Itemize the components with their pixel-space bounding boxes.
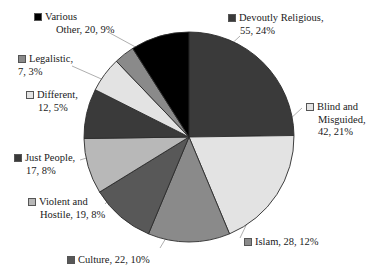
pie-label-text-legalistic-line2: 7, 3% (18, 66, 73, 79)
pie-label-legalistic: Legalistic, 7, 3% (18, 53, 73, 78)
pie-label-various-other: Various Other, 20, 9% (34, 11, 114, 36)
pie-label-violent-and-hostile: Violent and Hostile, 19, 8% (28, 196, 105, 221)
pie-label-text-blind-and-misguided-line3: 42, 21% (318, 126, 366, 139)
pie-label-different: Different, 12, 5% (26, 89, 78, 114)
pie-slices-group (84, 32, 294, 242)
pie-label-just-people: Just People, 17, 8% (14, 152, 75, 177)
legend-swatch-legalistic (18, 55, 26, 63)
legend-swatch-violent-and-hostile (28, 198, 36, 206)
pie-slice-devoutly-religious (189, 32, 294, 137)
pie-label-text-various-other-line2: Other, 20, 9% (56, 24, 114, 37)
pie-label-blind-and-misguided: Blind and Misguided, 42, 21% (306, 101, 366, 139)
legend-swatch-islam (244, 238, 252, 246)
pie-label-text-blind-and-misguided-line2: Misguided, (318, 114, 366, 127)
pie-label-text-different-line2: 12, 5% (38, 102, 78, 115)
pie-label-text-culture-line1: Culture, 22, 10% (78, 254, 150, 265)
legend-swatch-devoutly-religious (228, 14, 236, 22)
pie-label-devoutly-religious: Devoutly Religious, 55, 24% (228, 12, 324, 37)
pie-label-text-blind-and-misguided-line1: Blind and (317, 101, 358, 112)
pie-label-text-devoutly-religious-line2: 55, 24% (240, 25, 324, 38)
pie-label-culture: Culture, 22, 10% (67, 254, 150, 267)
pie-label-text-various-other-line1: Various (45, 11, 77, 22)
pie-label-islam: Islam, 28, 12% (244, 236, 319, 249)
legend-swatch-culture (67, 256, 75, 264)
pie-label-text-devoutly-religious-line1: Devoutly Religious, (239, 12, 324, 23)
legend-swatch-various-other (34, 13, 42, 21)
pie-label-text-violent-and-hostile-line1: Violent and (39, 196, 88, 207)
legend-swatch-different (26, 91, 34, 99)
pie-label-text-violent-and-hostile-line2: Hostile, 19, 8% (40, 209, 105, 222)
pie-label-text-legalistic-line1: Legalistic, (29, 53, 73, 64)
pie-label-text-different-line1: Different, (37, 89, 78, 100)
pie-label-text-islam-line1: Islam, 28, 12% (255, 236, 319, 247)
pie-chart-figure: Devoutly Religious, 55, 24% Blind and Mi… (0, 0, 375, 276)
legend-swatch-just-people (14, 154, 22, 162)
pie-label-text-just-people-line2: 17, 8% (26, 165, 75, 178)
pie-label-text-just-people-line1: Just People, (25, 152, 75, 163)
legend-swatch-blind-and-misguided (306, 103, 314, 111)
